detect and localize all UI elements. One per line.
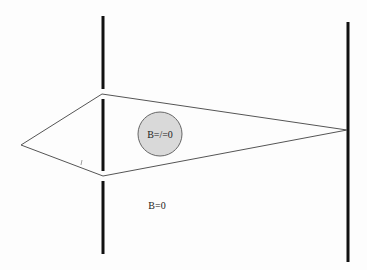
- lower-path: [21, 130, 347, 176]
- diagram-svg: B=/=0 B=0: [0, 0, 367, 270]
- outside-region-label: B=0: [148, 200, 165, 211]
- path-tick-mark: [81, 160, 82, 165]
- diagram-canvas: B=/=0 B=0: [0, 0, 367, 270]
- flux-region-label: B=/=0: [147, 129, 173, 140]
- upper-path: [21, 94, 347, 145]
